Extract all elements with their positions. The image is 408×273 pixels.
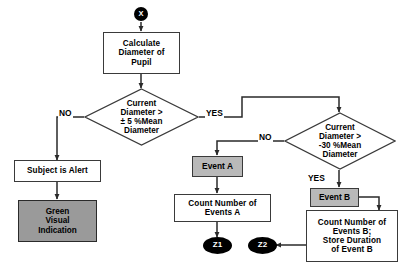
count-events-a-label: Count Number of Events A [188,199,256,217]
decision2-label: Current Diameter > -30 %Mean Diameter [319,123,361,160]
decision1-label: Current Diameter > ± 5 %Mean Diameter [120,99,162,136]
green-visual-indication-label: Green Visual Indication [38,207,77,235]
calculate-diameter-box: Calculate Diameter of Pupil [103,32,180,74]
terminator-z2-label: Z2 [258,241,267,250]
count-events-b-box: Count Number of Events B; Store Duration… [306,210,398,262]
terminator-z2: Z2 [248,237,277,254]
event-a-label: Event A [202,162,233,171]
event-a-tag: Event A [192,156,243,177]
subject-is-alert-label: Subject is Alert [27,166,88,175]
start-node-label: X [138,10,143,18]
green-visual-indication-box: Green Visual Indication [18,200,97,242]
edge-decision2-no [217,141,284,155]
event-b-tag: Event B [310,188,359,207]
subject-is-alert-box: Subject is Alert [14,160,101,182]
event-b-label: Event B [319,193,350,202]
edge-decision1-no [57,117,84,160]
terminator-z1: Z1 [203,237,232,254]
count-events-a-box: Count Number of Events A [174,194,271,222]
edge-eventb-to-countb [358,197,379,210]
edge-label-decision2-yes: YES [307,173,326,183]
edge-label-decision2-no: NO [258,132,273,142]
count-events-b-label: Count Number of Events B; Store Duration… [318,218,386,255]
flowchart-canvas: X Calculate Diameter of Pupil Current Di… [0,0,408,273]
calculate-diameter-label: Calculate Diameter of Pupil [118,39,164,67]
decision-current-diameter-30pct: Current Diameter > -30 %Mean Diameter [284,112,396,170]
edge-label-decision1-yes: YES [205,108,224,118]
start-node: X [134,7,148,21]
edge-label-decision1-no: NO [58,108,73,118]
terminator-z1-label: Z1 [213,241,222,250]
decision-current-diameter-5pct: Current Diameter > ± 5 %Mean Diameter [84,88,199,146]
